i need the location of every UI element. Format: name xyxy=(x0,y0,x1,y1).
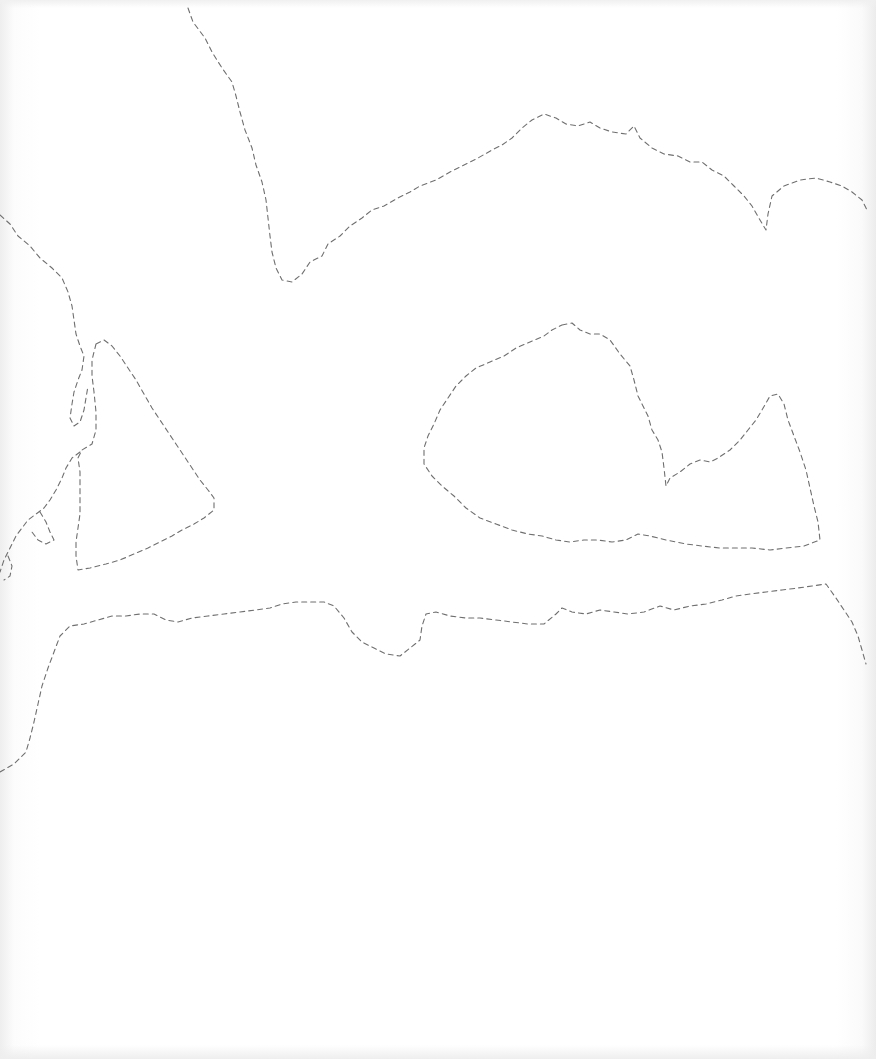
left-small-loop xyxy=(0,452,80,580)
diagonal-ridge-line xyxy=(188,8,868,282)
left-triangle-shape xyxy=(76,340,214,570)
lower-horizon-line xyxy=(0,584,866,772)
dashed-outline-drawing xyxy=(0,0,876,1059)
outline-sheet xyxy=(0,0,876,1059)
center-right-blob-shape xyxy=(424,323,820,550)
left-coast-line xyxy=(0,215,88,426)
